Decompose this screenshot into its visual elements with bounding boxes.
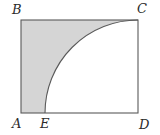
geometry-figure: B C A E D [0,0,160,135]
vertex-label-b: B [12,3,22,16]
vertex-label-e: E [40,117,50,130]
vertex-label-d: D [139,118,149,131]
figure-canvas [0,0,160,135]
vertex-label-c: C [137,2,147,15]
vertex-label-a: A [12,117,21,130]
shaded-region [21,20,138,113]
